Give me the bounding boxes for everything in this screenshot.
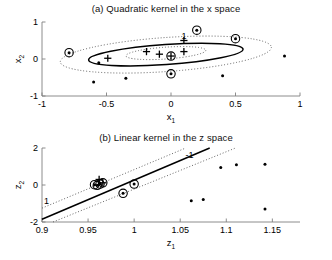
data-point-negative: [68, 51, 71, 54]
panel-b-title: (b) Linear kernel in the z space: [0, 132, 332, 143]
figure-root: (a) Quadratic kernel in the x space -1-0…: [0, 0, 332, 260]
data-point-positive: [143, 48, 150, 55]
x-tick-label: 1.15: [264, 225, 282, 235]
data-point-negative: [122, 192, 125, 195]
data-point-positive: [156, 51, 163, 58]
contour-label: 1: [181, 31, 186, 41]
panel-a-title: (a) Quadratic kernel in the x space: [0, 3, 332, 14]
x-tick-label: 0: [168, 99, 173, 109]
y-axis-label: x2: [12, 54, 25, 63]
data-point-negative: [97, 61, 100, 64]
data-point-negative: [283, 55, 286, 58]
data-point-positive: [104, 55, 111, 62]
data-point-negative: [124, 77, 127, 80]
y-tick-label: 2: [33, 143, 38, 153]
data-point-negative: [235, 163, 238, 166]
y-tick-label: 1: [33, 17, 38, 27]
x-tick-label: 0.95: [79, 225, 97, 235]
data-point-negative: [190, 199, 193, 202]
data-point-negative: [263, 208, 266, 211]
data-point-negative: [219, 166, 222, 169]
x-tick-label: 0.5: [229, 99, 242, 109]
panel-a-plot: -1-0.500.51-101x1x21: [0, 0, 332, 130]
data-point-negative: [92, 80, 95, 83]
y-tick-label: 0: [33, 180, 38, 190]
contour-label: -1: [185, 150, 193, 160]
x-tick-label: 1: [132, 225, 137, 235]
panel-a: (a) Quadratic kernel in the x space -1-0…: [0, 0, 332, 130]
y-axis-label: z2: [12, 180, 25, 189]
data-point-negative: [221, 74, 224, 77]
x-tick-label: 1.1: [220, 225, 233, 235]
x-tick-label: -1: [38, 99, 46, 109]
data-point-positive: [180, 48, 187, 55]
x-tick-label: -0.5: [99, 99, 115, 109]
x-axis-label: x1: [167, 111, 176, 124]
data-point-negative: [234, 37, 237, 40]
x-tick-label: 1: [297, 99, 302, 109]
margin-contour: [42, 148, 186, 208]
y-tick-label: -1: [30, 91, 38, 101]
margin-contour: [59, 30, 272, 79]
data-point-negative: [99, 183, 102, 186]
data-point-negative: [133, 183, 136, 186]
x-tick-label: 1.05: [171, 225, 189, 235]
margin-contour: [53, 148, 235, 222]
panel-b-plot: 0.90.9511.051.11.15-202z1z21-1: [0, 130, 332, 260]
data-point-negative: [195, 29, 198, 32]
y-tick-label: 0: [33, 54, 38, 64]
data-point-negative: [202, 198, 205, 201]
x-axis-label: z1: [167, 237, 176, 250]
decision-boundary: [88, 39, 244, 70]
data-point-negative: [170, 72, 173, 75]
contour-label: 1: [44, 196, 49, 206]
y-tick-label: -2: [30, 217, 38, 227]
panel-b: (b) Linear kernel in the z space 0.90.95…: [0, 130, 332, 260]
data-point-negative: [263, 163, 266, 166]
